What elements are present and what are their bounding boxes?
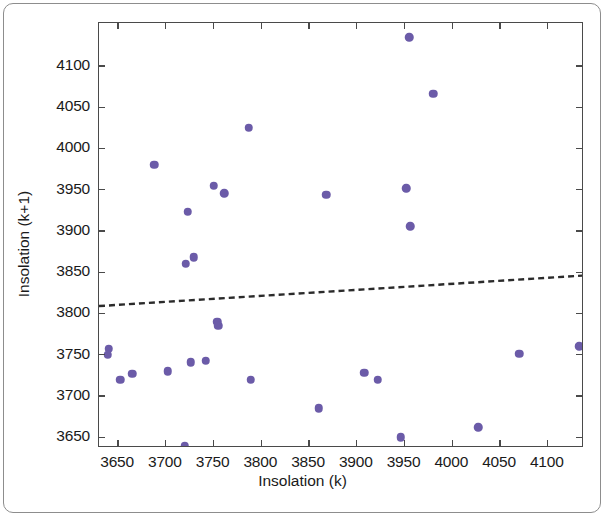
- y-tick-label-3700: 3700: [6, 386, 90, 404]
- y-tick-3950: [576, 189, 582, 190]
- y-tick-3900: [576, 230, 582, 231]
- data-point: [515, 350, 524, 359]
- x-tick-3950: [404, 440, 405, 446]
- x-tick-3900: [356, 23, 357, 29]
- data-point: [247, 375, 256, 384]
- data-point: [360, 369, 369, 378]
- y-tick-label-3950: 3950: [6, 180, 90, 198]
- x-tick-label-4000: 4000: [434, 453, 468, 471]
- x-tick-4050: [499, 23, 500, 29]
- x-tick-3900: [356, 440, 357, 446]
- y-tick-4100: [99, 65, 105, 66]
- data-point: [245, 124, 254, 133]
- x-tick-label-3900: 3900: [339, 453, 373, 471]
- data-point: [163, 367, 172, 376]
- data-point: [116, 375, 125, 384]
- y-tick-3700: [576, 395, 582, 396]
- data-point: [186, 358, 195, 367]
- y-tick-4050: [576, 107, 582, 108]
- x-tick-3850: [308, 23, 309, 29]
- y-tick-3800: [99, 313, 105, 314]
- y-tick-label-3650: 3650: [6, 427, 90, 445]
- y-tick-label-4100: 4100: [6, 56, 90, 74]
- x-tick-label-4050: 4050: [482, 453, 516, 471]
- y-tick-3800: [576, 313, 582, 314]
- x-tick-4050: [499, 440, 500, 446]
- x-tick-4100: [547, 440, 548, 446]
- x-tick-3950: [404, 23, 405, 29]
- x-tick-3750: [213, 23, 214, 29]
- data-point: [374, 375, 383, 384]
- data-point: [405, 33, 414, 42]
- data-point: [128, 369, 137, 378]
- y-tick-label-3900: 3900: [6, 221, 90, 239]
- plot-area: [99, 23, 582, 446]
- y-tick-label-4000: 4000: [6, 138, 90, 156]
- data-point: [184, 208, 193, 217]
- data-point: [429, 90, 438, 99]
- x-tick-3800: [261, 440, 262, 446]
- y-tick-3950: [99, 189, 105, 190]
- data-point: [402, 184, 411, 193]
- x-tick-3650: [117, 23, 118, 29]
- data-point: [474, 423, 483, 432]
- y-tick-label-3750: 3750: [6, 345, 90, 363]
- x-tick-3700: [165, 440, 166, 446]
- x-tick-3750: [213, 440, 214, 446]
- y-tick-4000: [99, 148, 105, 149]
- data-point: [189, 253, 198, 262]
- data-point: [220, 189, 229, 198]
- y-tick-3850: [99, 272, 105, 273]
- x-tick-label-4100: 4100: [530, 453, 564, 471]
- x-tick-label-3700: 3700: [148, 453, 182, 471]
- data-point: [575, 342, 582, 351]
- x-tick-4100: [547, 23, 548, 29]
- x-tick-4000: [452, 440, 453, 446]
- y-tick-3650: [576, 437, 582, 438]
- y-tick-3850: [576, 272, 582, 273]
- y-tick-3750: [99, 354, 105, 355]
- y-tick-4100: [576, 65, 582, 66]
- y-tick-3650: [99, 437, 105, 438]
- plot-axes-frame: [98, 22, 583, 447]
- x-tick-3700: [165, 23, 166, 29]
- y-tick-3750: [576, 354, 582, 355]
- x-tick-label-3950: 3950: [387, 453, 421, 471]
- x-axis-title: Insolation (k): [0, 472, 605, 490]
- y-tick-label-3800: 3800: [6, 303, 90, 321]
- data-point: [202, 356, 211, 365]
- data-point: [314, 404, 323, 413]
- data-point: [322, 190, 331, 199]
- x-tick-3650: [117, 440, 118, 446]
- data-point: [181, 442, 190, 446]
- data-point: [214, 322, 223, 331]
- data-point: [209, 181, 218, 190]
- y-tick-3900: [99, 230, 105, 231]
- data-point: [406, 222, 415, 231]
- x-tick-label-3850: 3850: [291, 453, 325, 471]
- y-tick-label-3850: 3850: [6, 262, 90, 280]
- y-tick-3700: [99, 395, 105, 396]
- trend-line: [99, 23, 582, 446]
- y-tick-label-4050: 4050: [6, 97, 90, 115]
- x-tick-4000: [452, 23, 453, 29]
- data-point: [150, 161, 159, 170]
- x-tick-3800: [261, 23, 262, 29]
- y-tick-4000: [576, 148, 582, 149]
- y-tick-4050: [99, 107, 105, 108]
- data-point: [182, 260, 191, 269]
- x-tick-3850: [308, 440, 309, 446]
- x-tick-label-3800: 3800: [243, 453, 277, 471]
- x-tick-label-3750: 3750: [196, 453, 230, 471]
- x-tick-label-3650: 3650: [100, 453, 134, 471]
